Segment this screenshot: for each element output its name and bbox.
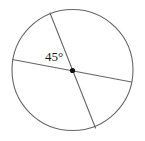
geometry-figure: 45° (0, 0, 145, 141)
center-point (70, 68, 75, 73)
circle-diagram-canvas (0, 0, 145, 141)
angle-label-45: 45° (45, 50, 63, 63)
